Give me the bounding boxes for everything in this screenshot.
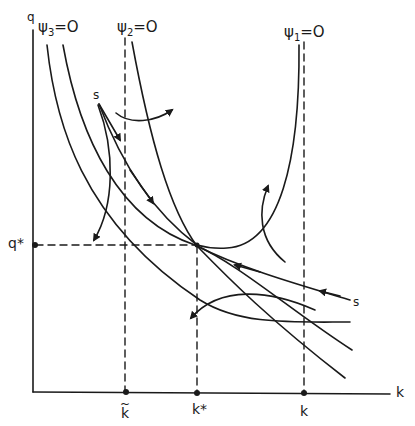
saddle-path-label-lower: s xyxy=(353,296,359,308)
q-star-label: q* xyxy=(8,236,24,250)
psi2-curve xyxy=(132,42,345,378)
psi3-label: ψ3=O xyxy=(38,20,79,38)
k-bar-dot xyxy=(301,390,307,396)
k-star-label: k* xyxy=(192,402,207,416)
trajectory-right-up xyxy=(262,186,285,262)
k-star-dot xyxy=(194,390,200,396)
psi1-curve xyxy=(197,45,299,248)
y-axis-label: q xyxy=(27,11,35,23)
phase-diagram xyxy=(0,0,415,426)
x-axis-label: k xyxy=(396,385,404,399)
steady-state-dot xyxy=(195,243,200,248)
x-axis xyxy=(33,392,390,394)
k-bar-label: k xyxy=(300,404,308,418)
saddle-path-label-upper: s xyxy=(93,89,99,101)
q-star-dot xyxy=(32,242,38,248)
psi1-label: ψ1=O xyxy=(284,25,325,43)
psi3-curve-outer xyxy=(47,45,350,322)
saddle-path-lower xyxy=(197,246,350,300)
k-tilde-label: k xyxy=(121,406,129,420)
saddle-path-upper xyxy=(99,104,197,245)
k-tilde-dot xyxy=(123,389,129,395)
psi2-label: ψ2=O xyxy=(117,20,158,38)
